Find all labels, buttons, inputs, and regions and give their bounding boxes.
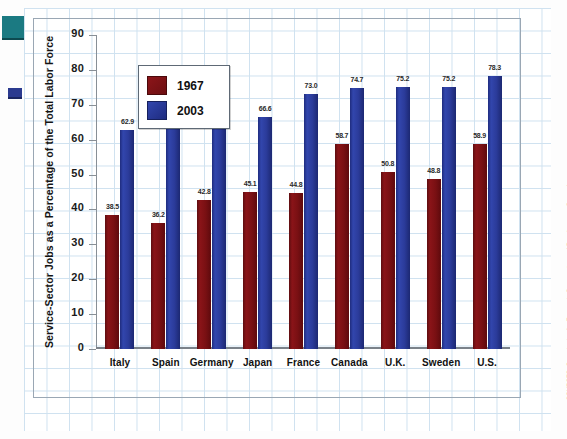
bar-germany-2003: 65.6 — [212, 120, 226, 349]
bar-italy-1967: 38.5 — [105, 215, 119, 349]
y-axis-tick-mark — [89, 349, 96, 350]
y-axis-tick-label: 30 — [71, 236, 84, 248]
y-axis-tick-label: 70 — [71, 97, 84, 109]
y-axis-tick-mark — [89, 35, 96, 36]
bar-value-label: 75.2 — [442, 75, 455, 82]
x-axis-label-uk: U.K. — [372, 357, 418, 379]
page-background: Service-Sector Jobs as a Percentage of t… — [0, 0, 567, 439]
legend-item-2003: 2003 — [147, 101, 221, 120]
bar-us-2003: 78.3 — [488, 76, 502, 349]
teal-edge-marker — [2, 16, 24, 40]
bar-sweden-2003: 75.2 — [442, 87, 456, 349]
bar-value-label: 36.2 — [152, 211, 165, 218]
x-axis-label-spain: Spain — [143, 357, 189, 379]
legend-label-2003: 2003 — [177, 104, 204, 118]
bar-sweden-1967: 48.8 — [427, 179, 441, 349]
x-axis-label-italy: Italy — [97, 357, 143, 379]
blue-edge-marker — [8, 88, 22, 99]
bar-value-label: 50.8 — [381, 160, 394, 167]
bar-group: 58.774.7 — [326, 35, 372, 349]
bar-value-label: 58.7 — [335, 132, 348, 139]
y-axis-tick-label: 0 — [78, 341, 84, 353]
bar-uk-1967: 50.8 — [381, 172, 395, 349]
bar-france-1967: 44.8 — [289, 193, 303, 349]
bar-group: 38.562.9 — [97, 35, 143, 349]
y-axis-tick-mark — [89, 105, 96, 106]
y-axis-tick-label: 20 — [71, 271, 84, 283]
x-axis-category-labels: ItalySpainGermanyJapanFranceCanadaU.K.Sw… — [97, 357, 510, 379]
bar-group: 44.873.0 — [281, 35, 327, 349]
chart-frame: Service-Sector Jobs as a Percentage of t… — [33, 18, 521, 398]
bar-value-label: 42.8 — [198, 188, 211, 195]
x-axis-label-japan: Japan — [235, 357, 281, 379]
x-axis-label-germany: Germany — [189, 357, 235, 379]
bar-group: 50.875.2 — [372, 35, 418, 349]
y-axis-tick-mark — [89, 140, 96, 141]
bar-japan-2003: 66.6 — [258, 117, 272, 349]
bar-spain-2003: 63.6 — [166, 127, 180, 349]
bar-italy-2003: 62.9 — [120, 130, 134, 349]
y-axis-tick-mark — [89, 279, 96, 280]
y-axis-title: Service-Sector Jobs as a Percentage of t… — [40, 35, 58, 349]
y-axis-tick-label: 90 — [71, 27, 84, 39]
bar-spain-1967: 36.2 — [151, 223, 165, 349]
bar-value-label: 75.2 — [396, 75, 409, 82]
y-axis-tick-mark — [89, 70, 96, 71]
bar-germany-1967: 42.8 — [197, 200, 211, 349]
x-axis-label-france: France — [281, 357, 327, 379]
bar-value-label: 38.5 — [106, 203, 119, 210]
x-axis-label-canada: Canada — [326, 357, 372, 379]
y-axis-tick-label: 80 — [71, 62, 84, 74]
bar-canada-2003: 74.7 — [350, 88, 364, 349]
bar-group: 45.166.6 — [235, 35, 281, 349]
chart-legend: 19672003 — [138, 65, 230, 129]
y-axis-tick-label: 40 — [71, 201, 84, 213]
bar-value-label: 62.9 — [121, 118, 134, 125]
y-axis-title-text: Service-Sector Jobs as a Percentage of t… — [43, 36, 55, 348]
bar-value-label: 66.6 — [259, 105, 272, 112]
bar-canada-1967: 58.7 — [335, 144, 349, 349]
y-axis-tick-mark — [89, 209, 96, 210]
bar-uk-2003: 75.2 — [396, 87, 410, 349]
legend-item-1967: 1967 — [147, 76, 221, 95]
x-axis-label-sweden: Sweden — [418, 357, 464, 379]
bar-value-label: 73.0 — [305, 82, 318, 89]
bar-group: 48.875.2 — [418, 35, 464, 349]
y-axis-tick-label: 60 — [71, 132, 84, 144]
y-axis-tick-mark — [89, 244, 96, 245]
legend-label-1967: 1967 — [177, 79, 204, 93]
bar-value-label: 48.8 — [427, 167, 440, 174]
bar-value-label: 74.7 — [350, 76, 363, 83]
legend-swatch-1967 — [147, 76, 167, 95]
y-axis-tick-label: 10 — [71, 306, 84, 318]
bar-group: 58.978.3 — [464, 35, 510, 349]
bar-france-2003: 73.0 — [304, 94, 318, 349]
bar-japan-1967: 45.1 — [243, 192, 257, 349]
bar-value-label: 58.9 — [473, 132, 486, 139]
x-axis-label-us: U.S. — [464, 357, 510, 379]
y-axis-tick-label: 50 — [71, 167, 84, 179]
bar-value-label: 45.1 — [244, 180, 257, 187]
y-axis-tick-mark — [89, 314, 96, 315]
bar-value-label: 78.3 — [488, 64, 501, 71]
bar-value-label: 44.8 — [290, 181, 303, 188]
y-axis-tick-mark — [89, 175, 96, 176]
legend-swatch-2003 — [147, 101, 167, 120]
bar-us-1967: 58.9 — [473, 144, 487, 349]
